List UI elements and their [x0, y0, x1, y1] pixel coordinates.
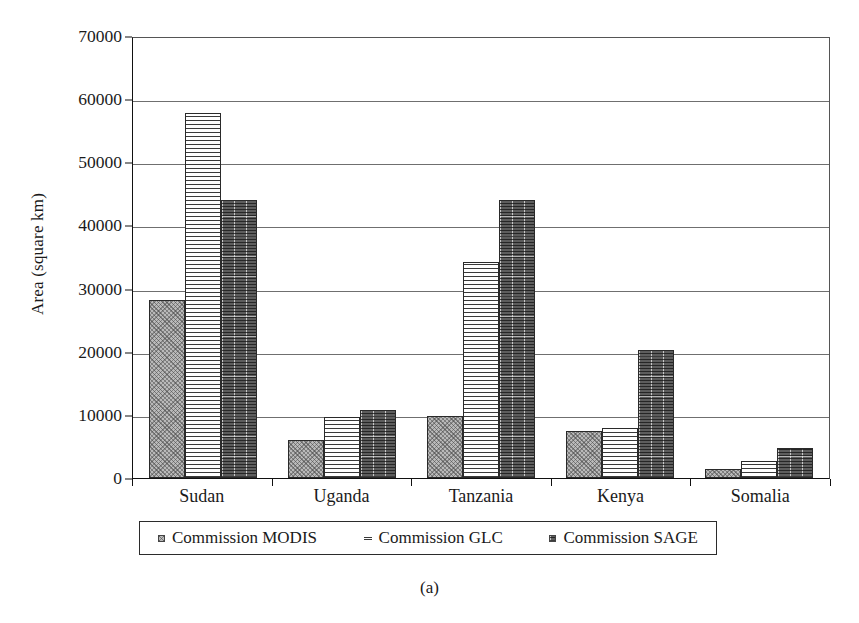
y-tick-label: 40000 [78, 218, 122, 236]
y-tick-label: 60000 [78, 91, 122, 109]
y-tick-mark [125, 289, 132, 290]
bar-group [427, 38, 535, 478]
y-tick-mark [125, 163, 132, 164]
y-axis-title: Area (square km) [28, 154, 48, 354]
x-tick-label: Uganda [281, 486, 401, 507]
y-axis-tick-labels: 010000200003000040000500006000070000 [48, 0, 132, 623]
x-tick-label: Tanzania [421, 486, 541, 507]
x-tick-mark [132, 479, 133, 486]
x-tick-label: Sudan [142, 486, 262, 507]
bar [463, 262, 499, 478]
figure-caption: (a) [0, 578, 859, 598]
y-tick-label: 70000 [78, 28, 122, 46]
y-tick-mark [125, 415, 132, 416]
plot-area [132, 37, 830, 479]
figure-panel-a: Area (square km) 01000020000300004000050… [0, 0, 859, 623]
legend-swatch-sage-icon [549, 535, 556, 542]
legend-label-sage: Commission SAGE [563, 528, 698, 548]
x-axis-tick-marks [132, 479, 830, 480]
bar-group [288, 38, 396, 478]
bar [777, 448, 813, 478]
bar-groups [133, 38, 829, 478]
y-tick-label: 20000 [78, 344, 122, 362]
bar-group [149, 38, 257, 478]
bar [288, 440, 324, 478]
y-tick-mark [125, 37, 132, 38]
bar [185, 113, 221, 478]
x-tick-mark [551, 479, 552, 486]
bar [705, 469, 741, 478]
x-tick-mark [690, 479, 691, 486]
bar [324, 417, 360, 478]
y-tick-label: 0 [113, 470, 122, 488]
bar-group [705, 38, 813, 478]
legend-item-modis: Commission MODIS [158, 528, 317, 548]
y-tick-label: 10000 [78, 407, 122, 425]
bar [360, 410, 396, 478]
legend-swatch-modis-icon [158, 535, 165, 542]
legend-item-sage: Commission SAGE [549, 528, 698, 548]
legend-item-glc: Commission GLC [364, 528, 503, 548]
y-tick-mark [125, 352, 132, 353]
bar [427, 416, 463, 478]
bar [221, 200, 257, 478]
bar-group [566, 38, 674, 478]
y-tick-label: 30000 [78, 281, 122, 299]
x-tick-mark [411, 479, 412, 486]
bar [602, 428, 638, 479]
y-tick-mark [125, 100, 132, 101]
bar [638, 350, 674, 478]
legend-swatch-glc-icon [364, 536, 372, 540]
legend-label-glc: Commission GLC [379, 528, 503, 548]
x-tick-mark [830, 479, 831, 486]
x-tick-label: Kenya [561, 486, 681, 507]
legend-label-modis: Commission MODIS [172, 528, 317, 548]
bar [499, 200, 535, 478]
y-tick-mark [125, 479, 132, 480]
y-tick-label: 50000 [78, 155, 122, 173]
y-tick-mark [125, 226, 132, 227]
chart-legend: Commission MODIS Commission GLC Commissi… [139, 521, 717, 555]
bar [741, 461, 777, 478]
x-tick-mark [272, 479, 273, 486]
x-axis-tick-labels: SudanUgandaTanzaniaKenyaSomalia [132, 486, 830, 507]
x-tick-label: Somalia [700, 486, 820, 507]
bar [566, 431, 602, 478]
bar [149, 300, 185, 478]
